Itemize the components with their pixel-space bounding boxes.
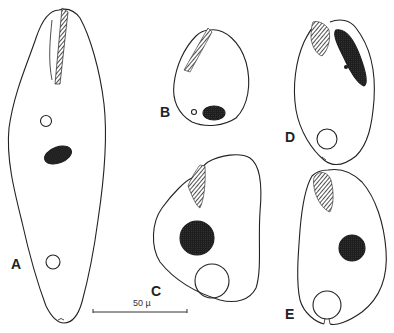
cell-b-vacuole bbox=[192, 110, 197, 115]
cell-d-macronucleus bbox=[335, 30, 366, 86]
cell-b-macronucleus bbox=[203, 106, 225, 120]
cell-d-contractile-vacuole bbox=[317, 129, 337, 149]
scale-bar bbox=[93, 309, 187, 313]
cell-c-contractile-vacuole bbox=[195, 264, 229, 298]
cell-a-membranelle-band bbox=[55, 8, 68, 84]
cell-e-macronucleus bbox=[339, 235, 365, 261]
panel-label-b: B bbox=[160, 104, 170, 120]
cell-e-contractile-vacuole bbox=[313, 291, 341, 319]
cell-c-membranelle-band bbox=[188, 165, 205, 208]
cell-a-macronucleus bbox=[42, 143, 74, 168]
cell-b bbox=[174, 28, 249, 125]
cell-e bbox=[298, 170, 387, 325]
cell-a-vacuole-upper bbox=[41, 116, 52, 127]
figure-drawing bbox=[0, 0, 394, 333]
cell-c-macronucleus bbox=[180, 221, 214, 255]
scale-bar-label: 50 µ bbox=[133, 298, 151, 308]
cell-d-outline bbox=[294, 20, 374, 164]
cell-d bbox=[294, 20, 374, 164]
cell-a bbox=[8, 8, 105, 323]
panel-label-a: A bbox=[11, 256, 21, 272]
cell-a-oral-groove bbox=[50, 20, 52, 80]
cell-c bbox=[153, 155, 261, 302]
cell-a-contractile-vacuole bbox=[46, 255, 60, 269]
panel-label-e: E bbox=[285, 306, 294, 322]
panel-label-c: C bbox=[151, 283, 161, 299]
cell-a-outline bbox=[8, 9, 105, 323]
cell-a-cytoproct bbox=[58, 319, 64, 321]
panel-label-d: D bbox=[285, 129, 295, 145]
cell-d-micronucleus bbox=[345, 66, 348, 69]
cell-d-membranelle-band bbox=[311, 21, 330, 56]
cell-e-membranelle-band bbox=[314, 173, 334, 212]
